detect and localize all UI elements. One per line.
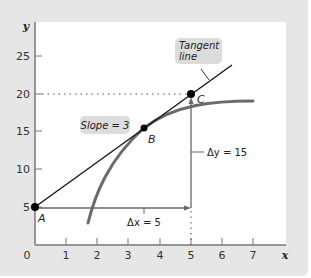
origin-label: 0 [24,249,31,262]
point-a [31,203,39,211]
y-tick-label: 5 [23,201,30,214]
x-axis-label: x [281,249,289,262]
point-c [187,90,195,98]
y-tick-label: 15 [16,125,30,138]
plot-area [35,22,286,245]
y-tick-label: 25 [16,50,30,63]
delta-y-label: Δy = 15 [207,147,247,158]
y-tick-label: 20 [16,88,30,101]
tangent-label-line1: Tangent [179,40,220,51]
x-tick-label: 7 [250,249,257,262]
slope-label: Slope = 3 [81,120,130,131]
y-tick-label: 10 [16,163,30,176]
y-axis-label: y [22,20,31,33]
x-tick-label: 6 [219,249,226,262]
point-a-label: A [37,212,46,225]
x-tick-label: 3 [125,249,132,262]
x-tick-label: 2 [94,249,101,262]
x-tick-label: 1 [63,249,70,262]
point-b [141,125,148,132]
delta-x-label: Δx = 5 [127,217,161,228]
x-tick-label: 4 [157,249,164,262]
x-tick-label: 5 [188,249,195,262]
point-c-label: C [197,93,205,106]
point-b-label: B [148,133,156,146]
tangent-label-line2: line [179,51,197,62]
chart: 25 20 15 10 5 0 1 2 3 4 5 6 7 y x A B C … [0,0,311,278]
